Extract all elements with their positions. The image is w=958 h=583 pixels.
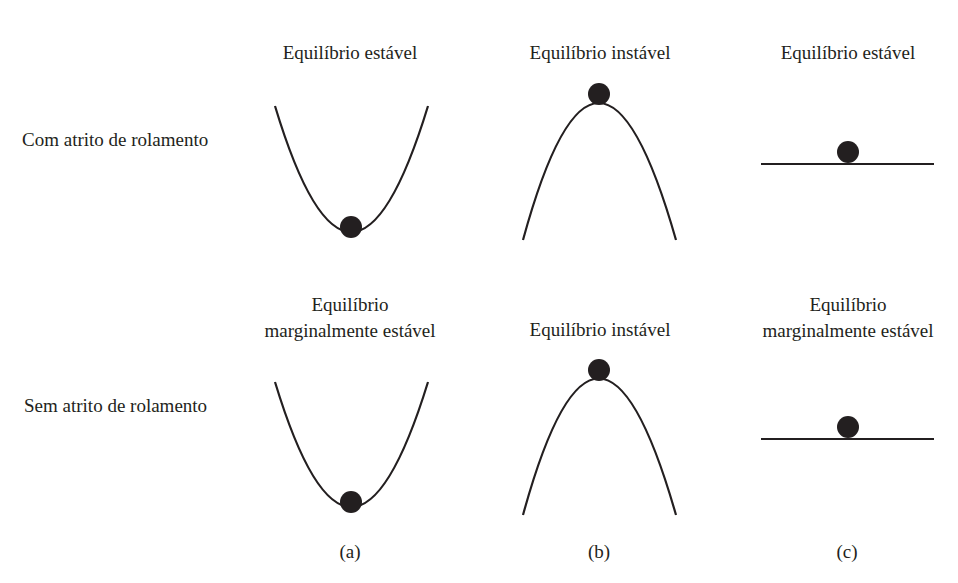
ball-row2-col-a	[340, 491, 362, 513]
ball-row1-col-b	[588, 83, 610, 105]
hill-curve-row1	[523, 103, 676, 240]
valley-curve-row2	[275, 382, 428, 507]
ball-row2-col-b	[588, 359, 610, 381]
equilibrium-diagram	[0, 0, 958, 583]
ball-row1-col-c	[837, 141, 859, 163]
ball-row2-col-c	[837, 416, 859, 438]
hill-curve-row2	[523, 379, 676, 516]
valley-curve-row1	[275, 106, 428, 232]
ball-row1-col-a	[340, 216, 362, 238]
